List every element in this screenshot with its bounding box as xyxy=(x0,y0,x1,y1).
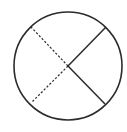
upper-left-radius-line xyxy=(31,27,68,66)
lower-left-radius-line xyxy=(32,66,68,102)
upper-right-radius-line xyxy=(68,27,106,66)
radius-segments xyxy=(31,27,106,104)
circle-diagram xyxy=(0,0,127,132)
lower-right-radius-line xyxy=(68,66,105,104)
